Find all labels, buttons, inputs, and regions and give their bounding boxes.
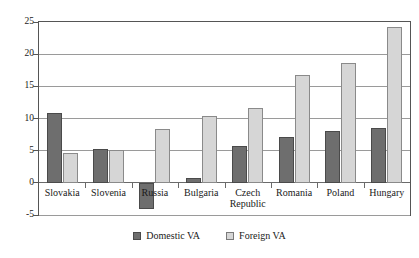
bar-slovakia-domestic-va (47, 113, 62, 183)
y-axis-tick-label: 5 (2, 146, 34, 156)
y-axis-tick-label: 10 (2, 114, 34, 124)
y-axis-tick-mark (33, 215, 38, 216)
y-axis-tick-label: 0 (2, 178, 34, 188)
y-axis-tick-label: 15 (2, 81, 34, 91)
bar-hungary-foreign-va (387, 27, 402, 183)
legend-item-foreign: Foreign VA (226, 230, 286, 241)
y-axis-tick-mark (33, 182, 38, 183)
bar-bulgaria-foreign-va (202, 116, 217, 183)
bar-bulgaria-domestic-va (186, 178, 201, 183)
y-axis: -50510152025 (0, 22, 34, 215)
bar-poland-domestic-va (325, 131, 340, 182)
bar-slovakia-foreign-va (63, 153, 78, 183)
bar-romania-foreign-va (295, 75, 310, 182)
bar-chart-figure: -50510152025 SlovakiaSloveniaRussiaBulga… (0, 0, 419, 258)
legend-item-domestic: Domestic VA (133, 230, 200, 241)
y-axis-tick-mark (33, 150, 38, 151)
foreign-swatch-icon (226, 232, 234, 240)
y-axis-tick-mark (33, 118, 38, 119)
y-axis-tick-label: 25 (2, 17, 34, 27)
bar-czech-republic-foreign-va (248, 108, 263, 183)
y-axis-tick-label: 20 (2, 49, 34, 59)
legend-label-foreign: Foreign VA (239, 230, 286, 241)
bar-russia-foreign-va (155, 129, 170, 183)
bar-czech-republic-domestic-va (232, 146, 247, 183)
bar-slovenia-domestic-va (93, 149, 108, 182)
y-axis-tick-label: -5 (2, 210, 34, 220)
bar-romania-domestic-va (279, 137, 294, 183)
bar-slovenia-foreign-va (109, 150, 124, 183)
bar-hungary-domestic-va (371, 128, 386, 183)
bar-poland-foreign-va (341, 63, 356, 183)
domestic-swatch-icon (133, 232, 141, 240)
y-axis-tick-mark (33, 54, 38, 55)
y-axis-tick-mark (33, 86, 38, 87)
category-label-hungary: Hungary (358, 187, 416, 199)
legend-label-domestic: Domestic VA (146, 230, 200, 241)
chart-legend: Domestic VA Foreign VA (0, 230, 419, 241)
y-axis-tick-mark (33, 22, 38, 23)
